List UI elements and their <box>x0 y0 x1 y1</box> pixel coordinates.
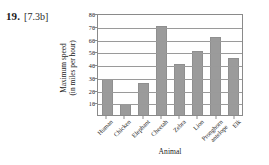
x-axis-tick-label: Chicken <box>112 118 132 138</box>
problem-reference: [7.3b] <box>24 11 48 22</box>
gridline <box>98 79 242 80</box>
bar-chart-figure: 19.[7.3b] Maximum speed (in miles per ho… <box>0 0 269 165</box>
x-axis-tick-label-line: Lion <box>192 118 205 131</box>
bar <box>174 64 185 115</box>
x-axis-tick-label-line: Zebra <box>172 118 187 133</box>
bar <box>156 26 167 115</box>
x-axis-tick-labels: HumanChickenElephantCheetahZebraLionPron… <box>97 118 243 150</box>
x-axis-tick-label-line: Elk <box>231 118 242 129</box>
x-axis-tick-label: Zebra <box>172 118 188 134</box>
bar <box>120 104 131 115</box>
gridline <box>98 28 242 29</box>
x-axis-tick-label: Lion <box>192 118 206 132</box>
x-axis-tick-label-line: Elephant <box>130 118 151 139</box>
gridline <box>98 53 242 54</box>
x-axis-tick-label: Elk <box>231 118 242 129</box>
bar <box>102 79 113 115</box>
y-axis-title-line2: (in miles per hour) <box>69 40 78 95</box>
y-axis-title-line1: Maximum speed <box>59 43 68 92</box>
gridline <box>98 104 242 105</box>
plot-area <box>97 14 243 116</box>
x-axis-tick-label-line: Cheetah <box>149 118 169 138</box>
x-axis-title: Animal <box>97 147 243 156</box>
bar <box>192 51 203 115</box>
problem-header: 19.[7.3b] <box>6 6 48 24</box>
gridline <box>98 92 242 93</box>
x-axis-tick-label: Human <box>96 118 114 136</box>
gridline <box>98 66 242 67</box>
gridline <box>98 41 242 42</box>
x-axis-tick-label: Elephant <box>130 118 151 139</box>
y-axis-title: Maximum speed (in miles per hour) <box>58 20 80 116</box>
bar <box>138 83 149 115</box>
x-axis-tick-label-line: Chicken <box>112 118 132 138</box>
problem-number: 19. <box>6 10 20 22</box>
x-axis-tick-label: Cheetah <box>149 118 169 138</box>
x-axis-tick-label-line: Human <box>96 118 114 136</box>
bar-series <box>98 15 242 115</box>
